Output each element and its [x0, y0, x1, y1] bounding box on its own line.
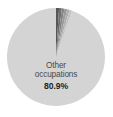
pie-slice[interactable] — [7, 8, 105, 106]
pie-chart-figure: Other occupations 80.9% — [0, 0, 113, 117]
pie-chart-svg — [0, 0, 113, 117]
pie-slice-group — [7, 8, 105, 106]
